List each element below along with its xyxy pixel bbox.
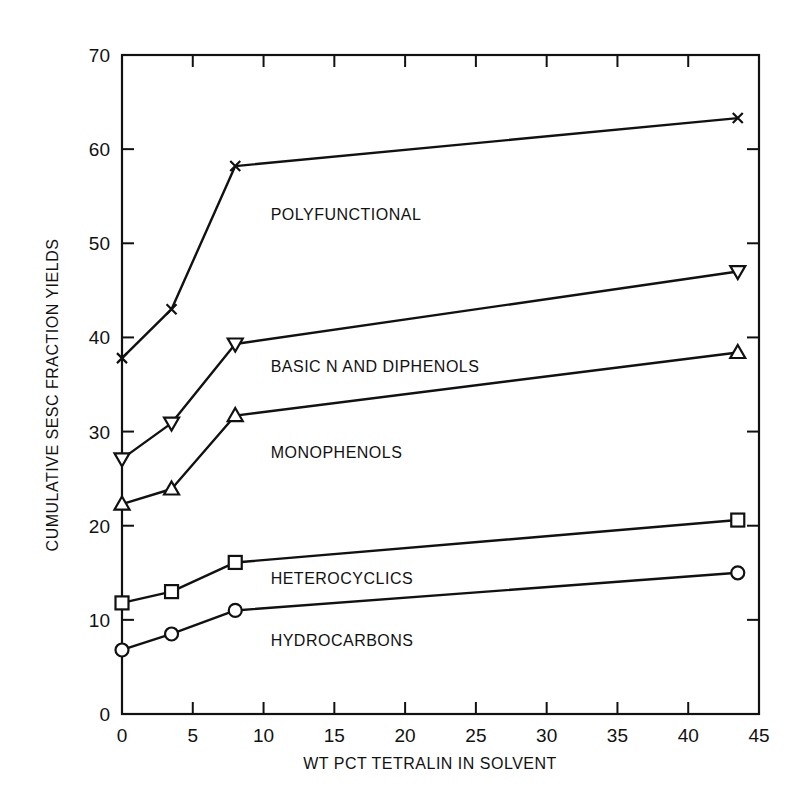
- x-axis-label: WT PCT TETRALIN IN SOLVENT: [303, 755, 557, 772]
- x-marker-icon: [167, 304, 177, 314]
- square-marker-icon: [731, 514, 744, 527]
- x-tick-label: 30: [536, 725, 557, 746]
- triangle-down-marker-icon: [164, 418, 179, 431]
- series-line: [122, 520, 738, 603]
- x-tick-label: 40: [678, 725, 699, 746]
- circle-marker-icon: [116, 643, 129, 656]
- y-tick-label: 10: [89, 610, 110, 631]
- series-line: [122, 118, 738, 358]
- axis-ticks: 051015202530354045010203040506070: [89, 45, 770, 746]
- plot-border: [122, 55, 759, 714]
- series-label: POLYFUNCTIONAL: [271, 206, 422, 223]
- x-tick-label: 20: [395, 725, 416, 746]
- series-lines: [122, 118, 738, 650]
- square-marker-icon: [165, 585, 178, 598]
- y-tick-label: 0: [99, 704, 110, 725]
- triangle-up-marker-icon: [730, 345, 745, 358]
- square-marker-icon: [116, 596, 129, 609]
- series-label: HETEROCYCLICS: [271, 570, 414, 587]
- x-tick-label: 5: [187, 725, 198, 746]
- y-tick-label: 30: [89, 422, 110, 443]
- line-chart: 051015202530354045010203040506070 POLYFU…: [0, 0, 805, 802]
- y-tick-label: 70: [89, 45, 110, 66]
- x-tick-label: 45: [748, 725, 769, 746]
- y-axis-label: CUMULATIVE SESC FRACTION YIELDS: [44, 239, 61, 552]
- y-tick-label: 50: [89, 233, 110, 254]
- circle-marker-icon: [165, 627, 178, 640]
- x-tick-label: 35: [607, 725, 628, 746]
- triangle-down-marker-icon: [115, 453, 130, 466]
- series-label: HYDROCARBONS: [271, 632, 414, 649]
- y-tick-label: 40: [89, 327, 110, 348]
- series-label: MONOPHENOLS: [271, 444, 403, 461]
- x-tick-label: 10: [253, 725, 274, 746]
- series-label: BASIC N AND DIPHENOLS: [271, 358, 480, 375]
- circle-marker-icon: [229, 604, 242, 617]
- series-line: [122, 573, 738, 650]
- x-tick-label: 0: [117, 725, 128, 746]
- y-tick-label: 60: [89, 139, 110, 160]
- x-tick-label: 25: [465, 725, 486, 746]
- y-tick-label: 20: [89, 516, 110, 537]
- circle-marker-icon: [731, 566, 744, 579]
- plot-frame: [122, 55, 759, 714]
- series-labels: POLYFUNCTIONALBASIC N AND DIPHENOLSMONOP…: [271, 206, 480, 649]
- square-marker-icon: [229, 556, 242, 569]
- x-tick-label: 15: [324, 725, 345, 746]
